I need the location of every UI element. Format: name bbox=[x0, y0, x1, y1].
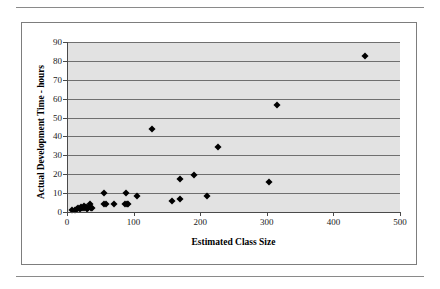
gridline-y-10 bbox=[67, 193, 400, 194]
gridline-y-50 bbox=[67, 118, 400, 119]
y-tick-70 bbox=[63, 80, 67, 81]
y-tick-label-90: 90 bbox=[40, 37, 62, 47]
data-point bbox=[361, 53, 368, 60]
data-point bbox=[273, 102, 280, 109]
x-tick-500 bbox=[400, 212, 401, 216]
x-tick-200 bbox=[200, 212, 201, 216]
y-tick-80 bbox=[63, 61, 67, 62]
y-tick-20 bbox=[63, 174, 67, 175]
y-tick-30 bbox=[63, 155, 67, 156]
data-point bbox=[177, 196, 184, 203]
data-point bbox=[168, 197, 175, 204]
gridline-y-70 bbox=[67, 80, 400, 81]
x-tick-label-200: 200 bbox=[193, 217, 207, 227]
x-tick-400 bbox=[333, 212, 334, 216]
data-point bbox=[148, 125, 155, 132]
data-point bbox=[191, 172, 198, 179]
gridline-y-30 bbox=[67, 155, 400, 156]
data-point bbox=[176, 175, 183, 182]
x-tick-label-300: 300 bbox=[260, 217, 274, 227]
y-tick-60 bbox=[63, 99, 67, 100]
x-tick-label-400: 400 bbox=[327, 217, 341, 227]
x-tick-100 bbox=[134, 212, 135, 216]
x-axis-title: Estimated Class Size bbox=[67, 237, 400, 247]
data-point bbox=[100, 190, 107, 197]
gridline-y-60 bbox=[67, 99, 400, 100]
y-axis-line bbox=[67, 42, 68, 213]
x-tick-0 bbox=[67, 212, 68, 216]
x-tick-label-500: 500 bbox=[393, 217, 407, 227]
y-tick-40 bbox=[63, 136, 67, 137]
data-point bbox=[122, 190, 129, 197]
figure-page: 0102030405060708090 0100200300400500 Act… bbox=[0, 0, 440, 289]
y-tick-50 bbox=[63, 118, 67, 119]
y-tick-90 bbox=[63, 42, 67, 43]
data-point bbox=[110, 201, 117, 208]
x-tick-300 bbox=[267, 212, 268, 216]
y-axis-title: Actual Development Time - hours bbox=[36, 47, 46, 217]
data-point bbox=[215, 143, 222, 150]
y-tick-10 bbox=[63, 193, 67, 194]
gridline-y-40 bbox=[67, 136, 400, 137]
x-tick-label-100: 100 bbox=[127, 217, 141, 227]
x-axis-line bbox=[67, 212, 401, 213]
plot-area bbox=[67, 42, 400, 212]
x-tick-label-0: 0 bbox=[65, 217, 70, 227]
gridline-y-90 bbox=[67, 42, 400, 43]
gridline-y-20 bbox=[67, 174, 400, 175]
data-point bbox=[265, 179, 272, 186]
scatter-chart: 0102030405060708090 0100200300400500 Act… bbox=[0, 0, 440, 289]
gridline-y-80 bbox=[67, 61, 400, 62]
